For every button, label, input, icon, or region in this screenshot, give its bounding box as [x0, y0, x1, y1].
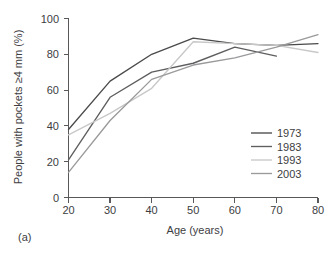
x-tick-label-20: 20	[62, 204, 74, 216]
y-axis-tick-labels: 100 80 60 40 20 0	[41, 13, 59, 204]
legend-label-1983: 1983	[277, 141, 301, 153]
y-tick-label-100: 100	[41, 13, 59, 25]
line-chart: 100 80 60 40 20 0 20 30 40 50 60 70 80	[0, 0, 334, 254]
panel-label: (a)	[18, 231, 31, 243]
x-axis-ticks	[69, 198, 319, 203]
x-tick-label-30: 30	[104, 204, 116, 216]
legend-label-2003: 2003	[277, 168, 301, 180]
y-tick-label-80: 80	[47, 48, 59, 60]
figure-panel-a: 100 80 60 40 20 0 20 30 40 50 60 70 80	[0, 0, 334, 254]
x-tick-label-40: 40	[145, 204, 157, 216]
series-line-1993	[69, 42, 319, 135]
x-tick-label-80: 80	[312, 204, 324, 216]
y-axis-ticks	[64, 19, 69, 198]
x-axis-tick-labels: 20 30 40 50 60 70 80	[62, 204, 324, 216]
y-tick-label-20: 20	[47, 156, 59, 168]
chart-legend: 1973198319932003	[251, 127, 301, 180]
legend-label-1993: 1993	[277, 154, 301, 166]
y-tick-label-60: 60	[47, 84, 59, 96]
y-tick-label-40: 40	[47, 120, 59, 132]
y-tick-label-0: 0	[53, 192, 59, 204]
legend-label-1973: 1973	[277, 127, 301, 139]
x-tick-label-50: 50	[187, 204, 199, 216]
x-axis-title: Age (years)	[167, 224, 224, 236]
y-axis-title: People with pockets ≥4 mm (%)	[12, 30, 24, 185]
x-tick-label-60: 60	[229, 204, 241, 216]
x-tick-label-70: 70	[270, 204, 282, 216]
